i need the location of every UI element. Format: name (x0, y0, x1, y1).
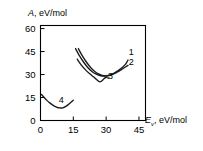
axis-tick-labels: 0153045600153045 (25, 23, 144, 135)
curve-4 (42, 94, 74, 108)
x-tick-label: 45 (134, 124, 145, 135)
curve-labels: 1234 (59, 47, 134, 105)
curve-label-4: 4 (59, 95, 64, 105)
chart-figure: A, eV/mol Ev, eV/mol 0153045600153045 12… (0, 0, 203, 151)
x-tick-label: 15 (68, 124, 79, 135)
plot-area: 0153045600153045 1234 (0, 0, 203, 151)
x-tick-label: 30 (101, 124, 112, 135)
curve-label-2: 2 (129, 57, 134, 67)
x-tick-label: 0 (38, 124, 43, 135)
curve-1 (76, 48, 129, 76)
data-curves (42, 48, 128, 108)
curve-label-3: 3 (108, 71, 113, 81)
y-tick-label: 30 (25, 69, 36, 80)
y-tick-label: 0 (30, 115, 35, 126)
curve-2 (78, 48, 128, 75)
y-tick-label: 15 (25, 92, 36, 103)
y-tick-label: 45 (25, 46, 36, 57)
y-tick-label: 60 (25, 23, 36, 34)
